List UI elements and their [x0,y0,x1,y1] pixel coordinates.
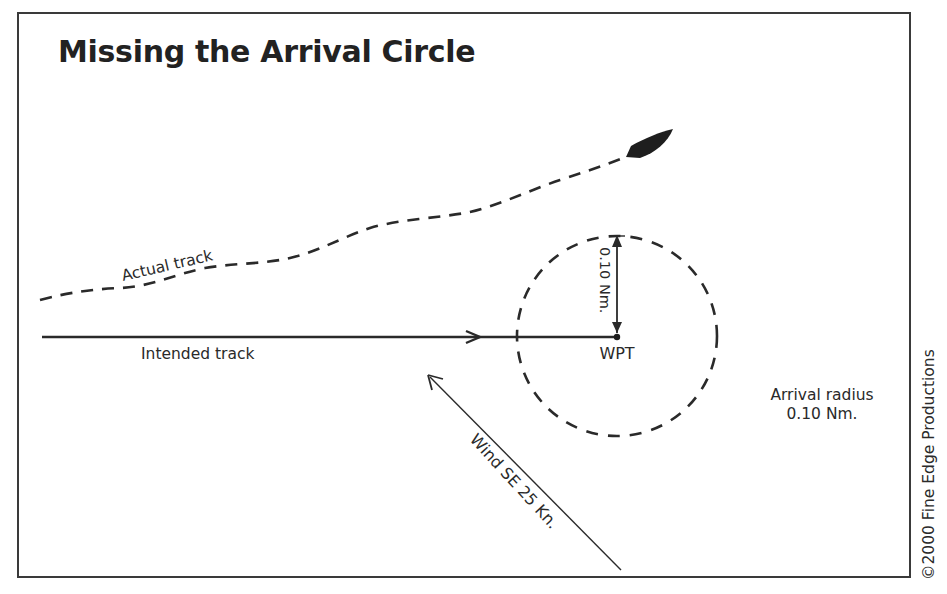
boat-icon [626,129,673,158]
wind-label: Wind SE 25 Kn. [466,430,562,533]
diagram-canvas: Actual track Intended track WPT 0.10 Nm.… [0,0,947,594]
wind-arrow [428,375,621,570]
waypoint-dot [614,334,620,340]
arrival-radius-label-line2: 0.10 Nm. [786,405,857,423]
arrival-radius-label-line1: Arrival radius [770,386,873,404]
intended-track-label: Intended track [141,345,254,363]
copyright-notice: ©2000 Fine Edge Productions [920,349,938,580]
radius-measure-label: 0.10 Nm. [597,247,613,313]
waypoint-label: WPT [599,344,634,363]
